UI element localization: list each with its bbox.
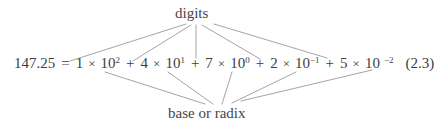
term-4-base: 10 [295, 55, 310, 72]
term-1-multiplication-sign: × [88, 56, 95, 72]
term-1-base: 10 [101, 55, 116, 72]
connector-digits-to-term-4 [202, 25, 260, 59]
equation-term-3: 7 × 10 0 [205, 55, 249, 72]
term-2-exponent: 1 [180, 55, 185, 65]
equation-number: (2.3) [405, 55, 434, 72]
equation-term-2: 4 × 10 1 [141, 55, 185, 72]
term-3-exponent: 0 [245, 55, 250, 65]
plus-sign-2: + [191, 55, 199, 72]
term-2-coefficient: 4 [141, 55, 149, 72]
equation-term-5: 5 × 10 −2 [340, 55, 393, 72]
term-2-multiplication-sign: × [153, 56, 160, 72]
term-1-exponent: 2 [116, 55, 121, 65]
term-3-coefficient: 7 [205, 55, 213, 72]
base-or-radix-annotation-label: base or radix [168, 106, 245, 121]
term-3-multiplication-sign: × [218, 56, 225, 72]
term-1-coefficient: 1 [76, 55, 84, 72]
term-5-exponent: −2 [384, 55, 394, 65]
connector-digits-to-term-5 [214, 24, 327, 58]
plus-sign-1: + [126, 55, 134, 72]
equation-left-hand-side: 147.25 [14, 55, 55, 72]
positional-notation-equation: 147.25 = 1 × 10 2 + 4 × 10 1 + 7 × 10 0 … [0, 55, 425, 79]
term-2-base: 10 [165, 55, 180, 72]
term-3-base: 10 [230, 55, 245, 72]
term-5-coefficient: 5 [340, 55, 348, 72]
equation-term-4: 2 × 10 −1 [270, 55, 319, 72]
term-5-base: 10 [365, 55, 380, 72]
digits-annotation-label: digits [175, 6, 208, 21]
term-4-exponent: −1 [310, 55, 320, 65]
equation-term-1: 1 × 10 2 [76, 55, 120, 72]
equals-sign: = [61, 55, 69, 72]
term-4-multiplication-sign: × [283, 56, 290, 72]
plus-sign-3: + [256, 55, 264, 72]
term-5-multiplication-sign: × [353, 56, 360, 72]
plus-sign-4: + [326, 55, 334, 72]
term-4-coefficient: 2 [270, 55, 278, 72]
